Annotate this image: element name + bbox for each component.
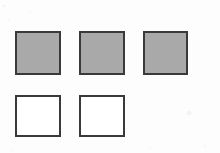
shaded-square-3 (143, 31, 188, 75)
figure-canvas (0, 0, 220, 153)
shaded-square-2 (79, 31, 125, 75)
unshaded-square-2 (79, 95, 125, 137)
unshaded-square-1 (15, 95, 61, 137)
shaded-square-1 (15, 31, 61, 75)
